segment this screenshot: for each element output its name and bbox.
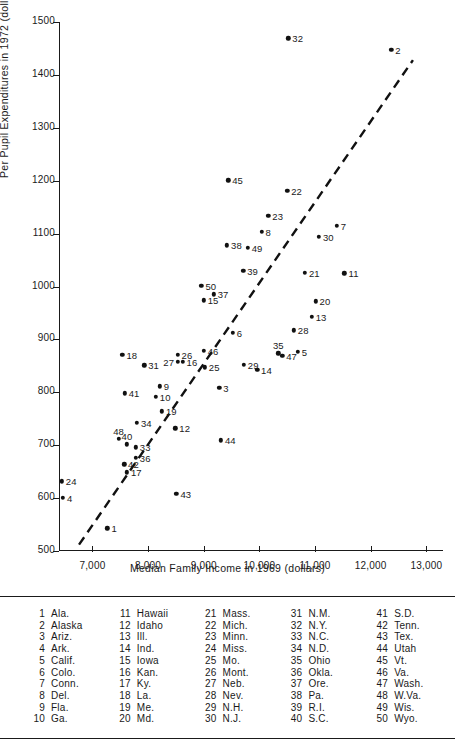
key-entry-state: Ariz. (51, 631, 72, 643)
data-point-label: 2 (395, 45, 400, 56)
key-entry-state: N.J. (223, 713, 242, 725)
data-point-label: 46 (208, 345, 219, 356)
x-tick-mark (92, 546, 93, 552)
key-entry-state: Mo. (223, 655, 240, 667)
key-entry: 44Utah (369, 643, 455, 655)
key-entry: 45Vt. (369, 655, 455, 667)
key-entry: 27Neb. (198, 678, 284, 690)
data-point-label: 37 (218, 289, 229, 300)
key-entry: 13Ill. (112, 631, 198, 643)
key-entry-state: Fla. (51, 702, 69, 714)
key-entry: 26Mont. (198, 667, 284, 679)
key-entry: 11Hawaii (112, 608, 198, 620)
data-point-label: 13 (316, 311, 327, 322)
key-column: 11Hawaii12Idaho13Ill.14Ind.15Iowa16Kan.1… (112, 608, 198, 725)
key-entry: 18La. (112, 690, 198, 702)
key-entry: 23Minn. (198, 631, 284, 643)
key-entry-state: Utah (394, 643, 416, 655)
y-tick-label: 700 (38, 438, 55, 449)
data-point-label: 45 (232, 175, 243, 186)
key-entry-state: Pa. (308, 690, 324, 702)
key-entry-state: Calif. (51, 655, 75, 667)
data-point-label: 10 (160, 391, 171, 402)
key-entry: 6Colo. (26, 667, 112, 679)
key-entry: 46Va. (369, 667, 455, 679)
key-entry-state: Colo. (51, 667, 76, 679)
key-entry-state: Conn. (51, 678, 79, 690)
key-entry-state: Vt. (394, 655, 407, 667)
key-entry-number: 13 (112, 631, 131, 643)
key-entry-state: Md. (137, 713, 154, 725)
data-point-label: 25 (209, 362, 220, 373)
data-point-label: 33 (140, 442, 151, 453)
key-entry-number: 29 (198, 702, 217, 714)
key-entry: 36Okla. (283, 667, 369, 679)
key-entry-number: 43 (369, 631, 388, 643)
key-entry-number: 21 (198, 608, 217, 620)
key-entry-state: N.C. (308, 631, 329, 643)
key-entry: 5Calif. (26, 655, 112, 667)
data-point-label: 19 (166, 406, 177, 417)
key-entry-state: Minn. (223, 631, 249, 643)
key-entry-number: 46 (369, 667, 388, 679)
key-entry-state: Me. (137, 702, 154, 714)
data-point-label: 28 (298, 325, 309, 336)
key-entry: 48W.Va. (369, 690, 455, 702)
key-entry-state: Wash. (394, 678, 423, 690)
key-entry-state: Ala. (51, 608, 69, 620)
key-entry: 43Tex. (369, 631, 455, 643)
key-entry-number: 18 (112, 690, 131, 702)
data-point-label: 1 (111, 523, 116, 534)
data-point-label: 23 (272, 210, 283, 221)
key-entry: 14Ind. (112, 643, 198, 655)
y-tick-label: 600 (38, 491, 55, 502)
data-point-label: 43 (180, 488, 191, 499)
key-entry: 42Tenn. (369, 620, 455, 632)
key-entry-state: Idaho (137, 620, 163, 632)
y-tick-label: 900 (38, 332, 55, 343)
key-entry: 10Ga. (26, 713, 112, 725)
key-entry: 9Fla. (26, 702, 112, 714)
key-entry-state: R.I. (308, 702, 325, 714)
key-entry-number: 6 (26, 667, 45, 679)
data-point-label: 3 (223, 383, 228, 394)
key-entry-state: Hawaii (137, 608, 169, 620)
trendline-svg (59, 22, 443, 551)
key-entry-number: 32 (283, 620, 302, 632)
key-entry-number: 38 (283, 690, 302, 702)
data-point-label: 7 (341, 220, 346, 231)
key-entry-number: 3 (26, 631, 45, 643)
key-entry-state: Mont. (223, 667, 249, 679)
key-entry: 21Mass. (198, 608, 284, 620)
key-entry-number: 49 (369, 702, 388, 714)
key-entry-number: 48 (369, 690, 388, 702)
key-entry-state: Miss. (223, 643, 248, 655)
key-entry-number: 4 (26, 643, 45, 655)
key-entry: 32N.Y. (283, 620, 369, 632)
key-column: 21Mass.22Mich.23Minn.24Miss.25Mo.26Mont.… (198, 608, 284, 725)
data-point-label: 34 (141, 417, 152, 428)
key-entry-state: Ore. (308, 678, 328, 690)
key-entry: 3Ariz. (26, 631, 112, 643)
y-axis-title: Per Pupil Expenditures in 1972 (dollars) (0, 0, 10, 178)
y-tick-label: 1500 (32, 15, 55, 26)
key-entry-number: 16 (112, 667, 131, 679)
x-tick-mark (148, 546, 149, 552)
key-entry-state: W.Va. (394, 690, 421, 702)
key-entry: 2Alaska (26, 620, 112, 632)
data-point-label: 26 (182, 349, 193, 360)
key-entry-number: 35 (283, 655, 302, 667)
x-tick-mark (315, 546, 316, 552)
key-entry-number: 47 (369, 678, 388, 690)
data-point-label: 44 (225, 435, 236, 446)
key-entry-number: 15 (112, 655, 131, 667)
data-point-label: 35 (273, 340, 284, 351)
key-entry-number: 50 (369, 713, 388, 725)
key-entry-state: Tex. (394, 631, 413, 643)
key-entry: 19Me. (112, 702, 198, 714)
key-entry-number: 37 (283, 678, 302, 690)
key-entry-number: 9 (26, 702, 45, 714)
y-tick-label: 1100 (33, 227, 55, 238)
key-entry-number: 42 (369, 620, 388, 632)
key-entry: 1Ala. (26, 608, 112, 620)
